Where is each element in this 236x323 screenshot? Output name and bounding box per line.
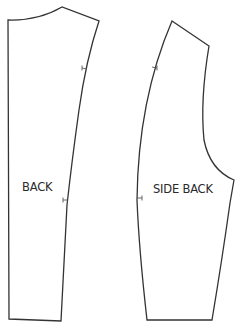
pattern-canvas: BACK SIDE BACK xyxy=(0,0,236,323)
back-outline xyxy=(8,7,99,321)
side-back-outline xyxy=(137,21,234,320)
back-label: BACK xyxy=(22,180,53,194)
back-pattern-piece: BACK xyxy=(8,7,99,321)
side-back-label: SIDE BACK xyxy=(153,182,213,196)
side-back-pattern-piece: SIDE BACK xyxy=(137,21,234,320)
